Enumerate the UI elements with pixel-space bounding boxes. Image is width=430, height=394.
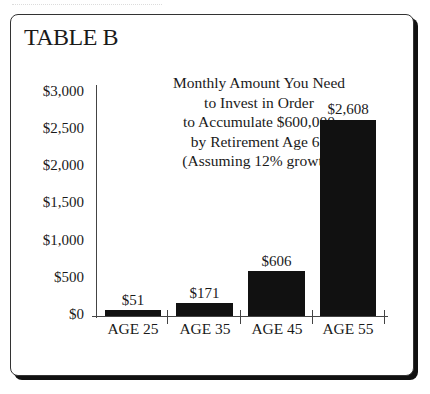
y-tick-label: $2,500 [43,120,84,137]
y-tick-label: $500 [54,269,84,286]
x-category-label: AGE 45 [242,320,312,338]
x-category-label: AGE 35 [170,320,240,338]
y-tick-label: $1,500 [43,194,84,211]
x-category-label: AGE 55 [313,320,383,338]
bar-age-45 [248,271,305,316]
subtitle-line: Monthly Amount You Need [148,73,370,93]
y-axis [96,85,97,318]
top-decorative-line [12,0,162,5]
x-category-label: AGE 25 [98,320,168,338]
y-tick-label: $2,000 [43,157,84,174]
bar-age-35 [176,303,233,316]
table-title: TABLE B [24,24,118,51]
bar-age-25 [105,310,161,316]
bar-age-55 [320,120,376,316]
y-tick-label: $0 [69,306,84,323]
x-tick [240,310,241,324]
y-tick-label: $3,000 [43,83,84,100]
bar-value-label: $51 [105,292,161,309]
y-tick-label: $1,000 [43,232,84,249]
bar-value-label: $606 [248,253,305,270]
x-tick [384,310,385,324]
bar-value-label: $2,608 [318,101,378,118]
bar-value-label: $171 [176,285,233,302]
